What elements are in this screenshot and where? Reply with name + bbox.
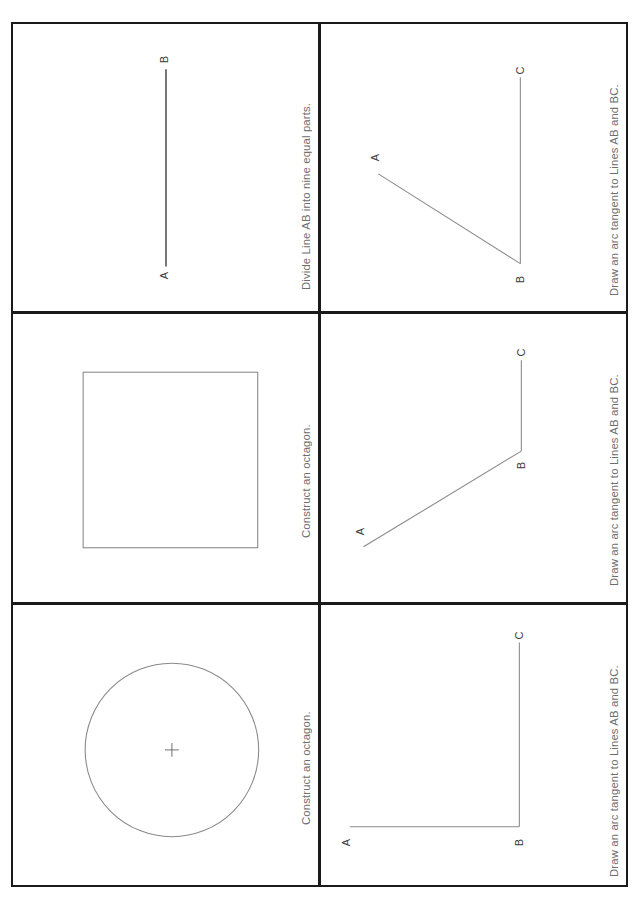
panel-arc-tangent-obtuse[interactable]: C A B Draw an arc tangent to Lines AB an… bbox=[319, 22, 628, 313]
panel-arc-tangent-acute[interactable]: C B A Draw an arc tangent to Lines AB an… bbox=[319, 312, 628, 604]
acute-angle-figure bbox=[321, 314, 626, 602]
point-label-c: C bbox=[516, 349, 527, 357]
panel-divide-line[interactable]: B A Divide Line AB into nine equal parts… bbox=[11, 22, 320, 313]
point-label-b: B bbox=[159, 56, 170, 63]
panel-caption: Draw an arc tangent to Lines AB and BC. bbox=[608, 336, 620, 586]
point-label-c: C bbox=[515, 67, 526, 75]
right-angle-figure bbox=[321, 605, 626, 885]
point-label-c: C bbox=[514, 632, 525, 640]
point-label-b: B bbox=[514, 839, 525, 846]
obtuse-angle-figure bbox=[321, 24, 626, 311]
panel-arc-tangent-right[interactable]: C A B Draw an arc tangent to Lines AB an… bbox=[319, 603, 628, 887]
point-label-a: A bbox=[159, 272, 170, 279]
point-label-a: A bbox=[370, 154, 381, 161]
panel-caption: Draw an arc tangent to Lines AB and BC. bbox=[608, 627, 620, 877]
circle-figure bbox=[13, 605, 318, 885]
point-label-b: B bbox=[516, 462, 527, 469]
point-label-b: B bbox=[515, 276, 526, 283]
point-label-a: A bbox=[355, 528, 366, 535]
point-label-a: A bbox=[341, 839, 352, 846]
panel-caption: Draw an arc tangent to Lines AB and BC. bbox=[608, 46, 620, 296]
worksheet-sheet: B A Divide Line AB into nine equal parts… bbox=[0, 0, 639, 903]
panel-caption: Divide Line AB into nine equal parts. bbox=[300, 50, 312, 290]
panel-caption: Construct an octagon. bbox=[300, 388, 312, 538]
line-segment-figure bbox=[13, 24, 318, 311]
panel-caption: Construct an octagon. bbox=[300, 675, 312, 825]
panel-construct-octagon-circle[interactable]: Construct an octagon. bbox=[11, 603, 320, 887]
square-figure bbox=[13, 314, 318, 602]
panel-construct-octagon-square[interactable]: Construct an octagon. bbox=[11, 312, 320, 604]
